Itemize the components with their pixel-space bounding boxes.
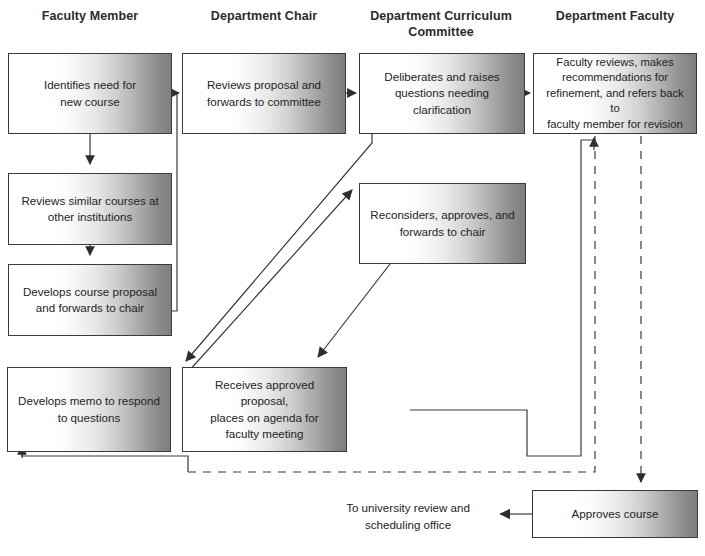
node-identifies-need-label: Identifies need for new course — [44, 77, 136, 110]
node-reconsiders-approves[interactable]: Reconsiders, approves, and forwards to c… — [359, 183, 526, 264]
node-receives-approved-proposal[interactable]: Receives approved proposal, places on ag… — [182, 367, 347, 452]
node-reviews-similar-courses-label: Reviews similar courses at other institu… — [21, 193, 158, 226]
node-reviews-similar-courses[interactable]: Reviews similar courses at other institu… — [8, 173, 172, 245]
connector-faculty-reviews-back-to-memo-tail — [22, 452, 188, 472]
node-deliberates-raises-questions-label: Deliberates and raises questions needing… — [384, 69, 499, 119]
node-approves-course[interactable]: Approves course — [532, 490, 698, 538]
node-receives-approved-proposal-label: Receives approved proposal, places on ag… — [191, 377, 338, 443]
node-faculty-reviews[interactable]: Faculty reviews, makes recommendations f… — [533, 53, 697, 134]
connector-reconsiders-to-receives — [318, 264, 390, 357]
node-develops-course-proposal-label: Develops course proposal and forwards to… — [23, 284, 157, 317]
flowchart-diagram: Faculty Member Department Chair Departme… — [0, 0, 705, 556]
label-to-university-review: To university review and scheduling offi… — [318, 500, 498, 533]
node-develops-memo-label: Develops memo to respond to questions — [18, 393, 160, 426]
node-develops-course-proposal[interactable]: Develops course proposal and forwards to… — [8, 264, 172, 336]
node-reviews-proposal[interactable]: Reviews proposal and forwards to committ… — [182, 53, 346, 134]
node-reconsiders-approves-label: Reconsiders, approves, and forwards to c… — [370, 207, 514, 240]
node-reviews-proposal-label: Reviews proposal and forwards to committ… — [207, 77, 321, 110]
node-approves-course-label: Approves course — [572, 506, 659, 523]
connector-committee-questions-to-memo — [186, 134, 372, 361]
node-deliberates-raises-questions[interactable]: Deliberates and raises questions needing… — [359, 53, 525, 134]
node-faculty-reviews-label: Faculty reviews, makes recommendations f… — [542, 55, 688, 133]
node-identifies-need[interactable]: Identifies need for new course — [8, 53, 172, 134]
connector-develops-proposal-to-chair — [172, 93, 177, 311]
node-develops-memo[interactable]: Develops memo to respond to questions — [7, 367, 171, 452]
